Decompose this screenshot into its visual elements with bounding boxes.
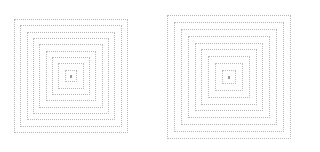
- center-dot: [228, 76, 230, 79]
- center-dot: [70, 75, 72, 78]
